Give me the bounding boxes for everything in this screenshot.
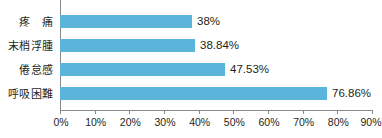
- x-tick-label-0: 0%: [53, 116, 68, 128]
- category-label-3: 呼吸困難: [0, 88, 53, 101]
- bar-value-2: 47.53%: [230, 62, 269, 76]
- x-tick-label-9: 90%: [360, 116, 381, 128]
- x-tick-2: [129, 110, 130, 114]
- x-tick-4: [199, 110, 200, 114]
- bar-row: 38.84%: [60, 39, 372, 52]
- x-tick-9: [372, 110, 373, 114]
- bar-row: 76.86%: [60, 87, 372, 100]
- plot-area: 38% 38.84% 47.53% 76.86%: [60, 0, 372, 110]
- category-label-1: 末梢浮腫: [0, 40, 53, 53]
- bar-row: 47.53%: [60, 63, 372, 76]
- x-tick-label-4: 40%: [189, 116, 210, 128]
- x-tick-label-1: 10%: [85, 116, 106, 128]
- x-tick-6: [268, 110, 269, 114]
- category-axis: 疼 痛 末梢浮腫 倦怠感 呼吸困難: [0, 0, 53, 110]
- bar-3[interactable]: [60, 87, 327, 100]
- x-tick-0: [60, 110, 61, 114]
- x-axis-line: [60, 110, 372, 111]
- category-label-0: 疼 痛: [0, 16, 53, 29]
- x-tick-label-8: 80%: [328, 116, 349, 128]
- bar-2[interactable]: [60, 63, 225, 76]
- bar-1[interactable]: [60, 39, 195, 52]
- x-tick-8: [337, 110, 338, 114]
- x-tick-7: [303, 110, 304, 114]
- x-tick-label-5: 50%: [224, 116, 245, 128]
- bar-chart: 疼 痛 末梢浮腫 倦怠感 呼吸困難 38% 38.84% 47.53% 76.8…: [0, 0, 382, 138]
- category-label-2: 倦怠感: [0, 64, 53, 77]
- bar-row: 38%: [60, 15, 372, 28]
- bar-0[interactable]: [60, 15, 192, 28]
- bar-value-0: 38%: [197, 14, 220, 28]
- x-tick-3: [164, 110, 165, 114]
- x-tick-label-6: 60%: [258, 116, 279, 128]
- bar-value-1: 38.84%: [200, 38, 239, 52]
- x-tick-label-3: 30%: [154, 116, 175, 128]
- x-tick-label-7: 70%: [293, 116, 314, 128]
- bar-value-3: 76.86%: [332, 86, 371, 100]
- x-tick-1: [95, 110, 96, 114]
- x-tick-label-2: 20%: [120, 116, 141, 128]
- x-tick-5: [233, 110, 234, 114]
